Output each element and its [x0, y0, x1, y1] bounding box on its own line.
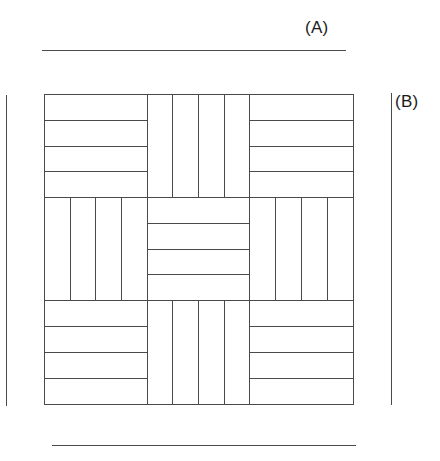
parquet-strip	[328, 198, 353, 300]
parquet-strip	[250, 353, 353, 379]
parquet-strip	[250, 301, 353, 327]
right-dimension-rule	[391, 93, 392, 405]
label-a: (A)	[305, 18, 329, 38]
parquet-strip	[250, 95, 353, 121]
parquet-strip	[250, 379, 353, 404]
parquet-strip	[45, 172, 147, 197]
parquet-strip	[148, 95, 174, 197]
parquet-strip	[173, 301, 199, 404]
top-dimension-rule	[42, 50, 346, 51]
left-dimension-rule	[6, 95, 7, 406]
bottom-dimension-rule	[52, 445, 356, 446]
parquet-block-r1-c2	[250, 198, 353, 301]
parquet-strip	[45, 95, 147, 121]
parquet-block-r2-c1	[148, 301, 251, 404]
parquet-strip	[250, 121, 353, 147]
parquet-strip	[148, 224, 250, 250]
parquet-block-r0-c1	[148, 95, 251, 198]
parquet-strip	[45, 379, 147, 404]
parquet-block-r2-c2	[250, 301, 353, 404]
parquet-strip	[148, 198, 250, 224]
parquet-strip	[148, 250, 250, 276]
parquet-strip	[45, 301, 147, 327]
parquet-strip	[199, 95, 225, 197]
parquet-strip	[45, 353, 147, 379]
parquet-block-r0-c2	[250, 95, 353, 198]
parquet-block-r1-c1	[148, 198, 251, 301]
parquet-pattern-grid	[44, 94, 354, 405]
parquet-strip	[148, 301, 174, 404]
parquet-strip	[250, 147, 353, 173]
parquet-block-r0-c0	[45, 95, 148, 198]
label-b: (B)	[395, 92, 419, 112]
parquet-block-r2-c0	[45, 301, 148, 404]
parquet-strip	[122, 198, 147, 300]
parquet-block-r1-c0	[45, 198, 148, 301]
parquet-strip	[199, 301, 225, 404]
parquet-strip	[71, 198, 97, 300]
parquet-strip	[225, 301, 250, 404]
parquet-strip	[45, 327, 147, 353]
parquet-strip	[148, 275, 250, 300]
parquet-strip	[250, 327, 353, 353]
parquet-strip	[45, 121, 147, 147]
parquet-strip	[45, 147, 147, 173]
parquet-strip	[45, 198, 71, 300]
parquet-strip	[225, 95, 250, 197]
parquet-strip	[276, 198, 302, 300]
parquet-strip	[250, 198, 276, 300]
parquet-figure: (A) (B)	[0, 0, 440, 461]
parquet-strip	[173, 95, 199, 197]
parquet-strip	[250, 172, 353, 197]
parquet-strip	[302, 198, 328, 300]
parquet-strip	[96, 198, 122, 300]
